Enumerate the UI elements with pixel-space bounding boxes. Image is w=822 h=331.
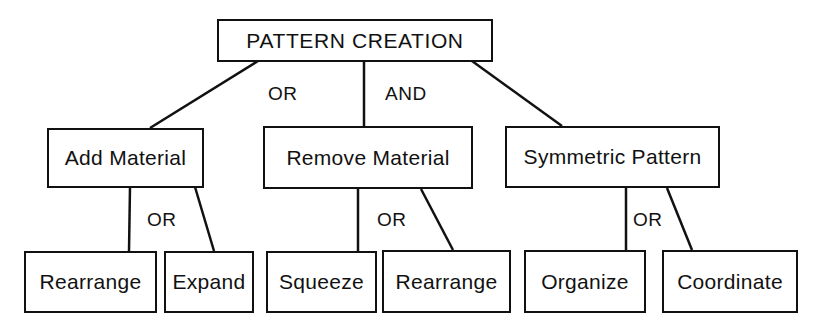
node-coordinate: Coordinate	[662, 250, 798, 313]
node-organize: Organize	[524, 250, 646, 313]
connector-or-root: OR	[268, 83, 298, 105]
edge-add-rearrange	[129, 187, 130, 251]
edge-symmetric-coordinate	[667, 188, 692, 250]
add-material-label: Add Material	[65, 146, 187, 170]
symmetric-pattern-label: Symmetric Pattern	[524, 145, 702, 169]
edge-remove-rearrange	[421, 189, 453, 250]
connector-or-add-material: OR	[147, 209, 177, 231]
node-rearrange-remove: Rearrange	[382, 250, 511, 313]
root-label: PATTERN CREATION	[246, 29, 463, 53]
squeeze-label: Squeeze	[279, 270, 364, 294]
coordinate-label: Coordinate	[677, 270, 783, 294]
node-add-material: Add Material	[47, 128, 204, 188]
connector-and-root: AND	[385, 83, 427, 105]
root-node-pattern-creation: PATTERN CREATION	[217, 19, 493, 62]
node-remove-material: Remove Material	[263, 126, 473, 189]
edge-root-add-material	[150, 61, 258, 128]
rearrange-add-label: Rearrange	[40, 270, 142, 294]
edge-add-expand	[195, 187, 214, 251]
node-expand: Expand	[164, 251, 254, 313]
remove-material-label: Remove Material	[286, 146, 449, 170]
node-squeeze: Squeeze	[266, 251, 377, 313]
expand-label: Expand	[172, 270, 245, 294]
node-rearrange-add: Rearrange	[24, 251, 157, 313]
node-symmetric-pattern: Symmetric Pattern	[505, 126, 720, 188]
connector-or-symmetric-pattern: OR	[633, 209, 663, 231]
organize-label: Organize	[541, 270, 629, 294]
connector-or-remove-material: OR	[377, 209, 407, 231]
edge-root-symmetric-pattern	[472, 61, 562, 126]
rearrange-remove-label: Rearrange	[396, 270, 498, 294]
